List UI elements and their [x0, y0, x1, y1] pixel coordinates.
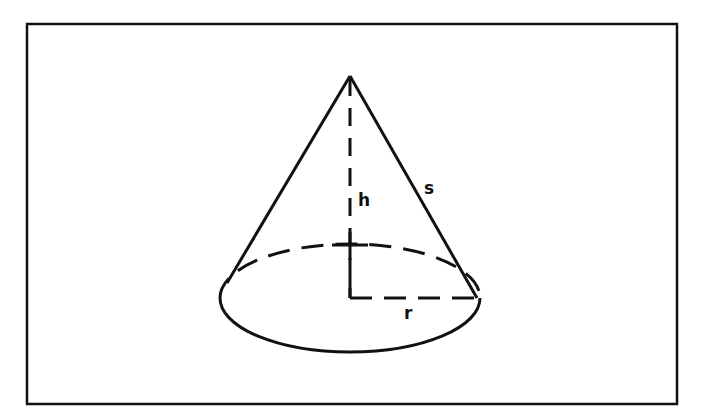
slant-height-label: s	[424, 178, 434, 198]
height-label: h	[358, 190, 370, 210]
base-front-arc	[220, 298, 480, 352]
radius-label: r	[404, 303, 413, 323]
right-slant-edge	[350, 76, 477, 298]
cone-diagram: h s r	[0, 0, 709, 419]
